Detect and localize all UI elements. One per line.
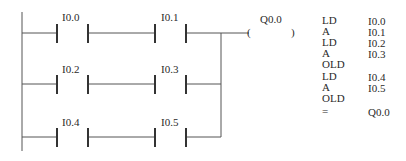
il-op: OLD — [322, 93, 345, 104]
contact-label: I0.0 — [62, 12, 79, 23]
contact-label: I0.1 — [161, 12, 178, 23]
contact-no-icon — [57, 128, 88, 147]
coil-close-paren-icon: ) — [291, 27, 295, 38]
contact-label: I0.4 — [62, 117, 79, 128]
il-op: = — [322, 106, 328, 117]
il-operand: Q0.0 — [368, 107, 390, 118]
coil-open-paren-icon: ( — [247, 27, 251, 38]
contact-label: I0.3 — [161, 64, 178, 75]
coil-label: Q0.0 — [260, 14, 282, 25]
contact-no-icon — [155, 75, 186, 94]
ladder-diagram — [0, 0, 406, 161]
contact-label: I0.2 — [62, 64, 79, 75]
il-operand: I0.5 — [368, 83, 385, 94]
contact-no-icon — [57, 24, 88, 43]
contact-no-icon — [155, 24, 186, 43]
contact-no-icon — [57, 75, 88, 94]
il-op: OLD — [322, 59, 345, 70]
contact-no-icon — [155, 128, 186, 147]
contact-label: I0.5 — [161, 117, 178, 128]
il-operand: I0.3 — [368, 49, 385, 60]
